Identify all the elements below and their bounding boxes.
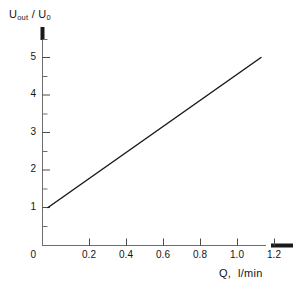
- chart-figure: Uout / U0 Q, l/min 5 4 3 2 1 0 0.2 0.4 0…: [0, 0, 305, 294]
- data-line-series-0: [48, 58, 261, 208]
- y-axis-arrow-icon: [41, 27, 45, 40]
- y-major-ticks: [43, 58, 51, 208]
- x-ticks: [90, 239, 275, 246]
- plot-area: [0, 0, 305, 294]
